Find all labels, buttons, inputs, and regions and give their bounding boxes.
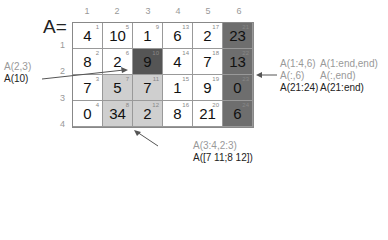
arrow-block: [137, 132, 158, 146]
annotation-column-linear: A(21:24): [280, 82, 318, 93]
arrow-head-icon: [121, 67, 128, 73]
annotation-single-linear: A(10): [4, 73, 28, 84]
annotation-single-subscript: A(2,3): [4, 61, 31, 72]
annotation-column-colon-end: A(:,end): [320, 70, 356, 81]
annotation-column-end: A(1:end,end): [320, 58, 378, 69]
arrow-head-icon: [134, 130, 141, 136]
arrow-single: [42, 70, 124, 79]
annotation-column-linear-end: A(21:end): [320, 82, 364, 93]
annotation-block-subscript: A(3:4,2:3): [193, 140, 237, 151]
annotation-column-colon: A(:,6): [280, 70, 304, 81]
arrow-head-icon: [256, 72, 262, 78]
annotation-column-range: A(1:4,6): [280, 58, 316, 69]
annotation-block-linear: A([7 11;8 12]): [193, 152, 253, 163]
